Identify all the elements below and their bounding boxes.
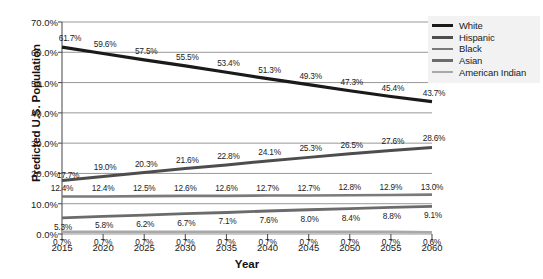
data-point-label: 8.4%: [342, 213, 360, 223]
data-point-label: 0.6%: [423, 237, 441, 247]
legend: WhiteHispanicBlackAsianAmerican Indian: [428, 16, 540, 83]
data-point-label: 0.7%: [94, 237, 112, 247]
data-point-label: 61.7%: [59, 33, 82, 43]
data-point-label: 0.7%: [300, 237, 318, 247]
data-labels-layer: 61.7%59.6%57.5%55.5%53.4%51.3%49.3%47.3%…: [62, 22, 432, 234]
data-point-label: 12.8%: [339, 182, 362, 192]
data-point-label: 12.6%: [174, 183, 197, 193]
data-point-label: 12.4%: [51, 183, 74, 193]
data-point-label: 43.7%: [423, 88, 446, 98]
data-point-label: 59.6%: [94, 39, 117, 49]
data-point-label: 20.3%: [135, 159, 158, 169]
legend-item-asian[interactable]: Asian: [432, 55, 537, 67]
data-point-label: 7.1%: [218, 216, 236, 226]
data-point-label: 26.5%: [341, 140, 364, 150]
data-point-label: 51.3%: [258, 65, 281, 75]
chart-container: Predicted U.S. Population Year 0.0%10.0%…: [0, 0, 543, 279]
data-point-label: 57.5%: [135, 46, 158, 56]
data-point-label: 8.0%: [301, 214, 319, 224]
legend-swatch-icon: [432, 24, 453, 27]
data-point-label: 19.0%: [94, 162, 117, 172]
data-point-label: 8.8%: [383, 211, 401, 221]
data-point-label: 6.7%: [177, 218, 195, 228]
data-point-label: 13.0%: [421, 182, 444, 192]
data-point-label: 55.5%: [176, 52, 199, 62]
data-point-label: 28.6%: [423, 133, 446, 143]
legend-item-hispanic[interactable]: Hispanic: [432, 32, 537, 44]
data-point-label: 17.7%: [57, 170, 80, 180]
data-point-label: 12.7%: [297, 183, 320, 193]
legend-swatch-icon: [432, 48, 453, 51]
data-point-label: 6.2%: [136, 219, 154, 229]
legend-item-black[interactable]: Black: [432, 43, 537, 55]
data-point-label: 12.9%: [380, 182, 403, 192]
data-point-label: 53.4%: [217, 58, 240, 68]
data-point-label: 45.4%: [382, 83, 405, 93]
data-point-label: 12.5%: [133, 183, 156, 193]
legend-swatch-icon: [432, 71, 453, 74]
data-point-label: 21.6%: [176, 155, 199, 165]
legend-item-label: American Indian: [459, 67, 526, 78]
legend-item-white[interactable]: White: [432, 20, 537, 32]
data-point-label: 47.3%: [341, 77, 364, 87]
data-point-label: 49.3%: [299, 71, 322, 81]
data-point-label: 12.4%: [92, 183, 115, 193]
data-point-label: 0.7%: [176, 237, 194, 247]
data-point-label: 0.7%: [258, 237, 276, 247]
data-point-label: 27.6%: [382, 136, 405, 146]
legend-item-american-indian[interactable]: American Indian: [432, 66, 537, 78]
data-point-label: 0.7%: [382, 237, 400, 247]
data-point-label: 0.7%: [341, 237, 359, 247]
data-point-label: 7.6%: [259, 215, 277, 225]
legend-item-label: Asian: [459, 55, 482, 66]
data-point-label: 25.3%: [299, 143, 322, 153]
legend-item-label: White: [459, 20, 483, 31]
legend-swatch-icon: [432, 59, 453, 62]
data-point-label: 5.3%: [54, 222, 72, 232]
data-point-label: 22.8%: [217, 151, 240, 161]
data-point-label: 12.6%: [215, 183, 238, 193]
data-point-label: 5.8%: [95, 220, 113, 230]
legend-item-label: Hispanic: [459, 32, 495, 43]
data-point-label: 9.1%: [424, 210, 442, 220]
data-point-label: 24.1%: [258, 147, 281, 157]
legend-item-label: Black: [459, 43, 482, 54]
data-point-label: 0.7%: [53, 237, 71, 247]
data-point-label: 0.7%: [217, 237, 235, 247]
data-point-label: 0.7%: [135, 237, 153, 247]
legend-swatch-icon: [432, 36, 453, 39]
data-point-label: 12.7%: [256, 183, 279, 193]
